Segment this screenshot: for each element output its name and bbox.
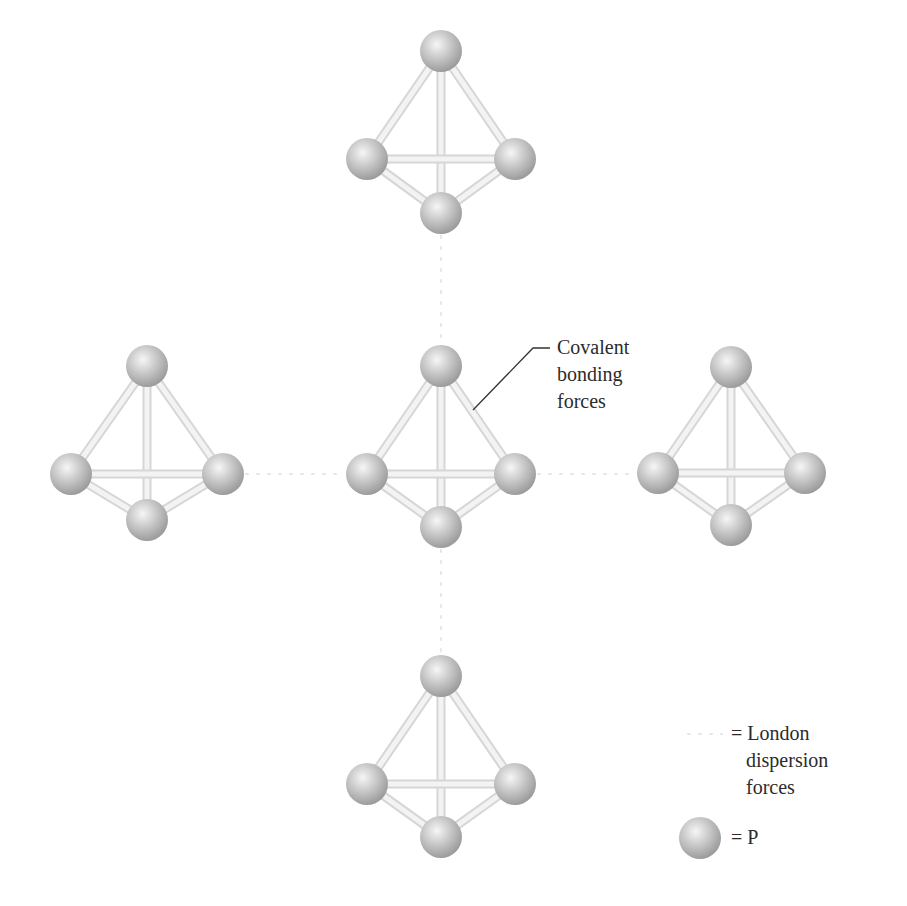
p4-molecule-center	[346, 345, 536, 548]
phosphorus-atom	[710, 504, 752, 546]
phosphorus-atom	[420, 345, 462, 387]
phosphorus-atom	[420, 655, 462, 697]
legend-dispersion-line-3: forces	[731, 774, 828, 801]
legend-graphics	[679, 734, 722, 859]
phosphorus-atom	[346, 138, 388, 180]
phosphorus-atom	[637, 452, 679, 494]
phosphorus-atom	[494, 763, 536, 805]
p4-molecule-right	[637, 346, 826, 546]
phosphorus-atom	[420, 506, 462, 548]
phosphorus-atom	[420, 192, 462, 234]
phosphorus-atom	[346, 763, 388, 805]
covalent-label-line-1: Covalent	[557, 334, 629, 361]
phosphorus-atom	[494, 453, 536, 495]
legend-atom-text: = P	[731, 824, 758, 851]
p4-molecule-top	[346, 30, 536, 234]
phosphorus-atom	[202, 453, 244, 495]
legend-phosphorus-atom-icon	[679, 817, 721, 859]
phosphorus-atom	[420, 30, 462, 72]
phosphorus-atom	[346, 453, 388, 495]
legend-atom-label: = P	[731, 824, 758, 851]
phosphorus-atom	[126, 499, 168, 541]
covalent-bonding-label: Covalent bonding forces	[557, 334, 629, 415]
p4-molecule-left	[50, 345, 244, 541]
phosphorus-atom	[126, 345, 168, 387]
legend-dispersion-line-1: = London	[731, 720, 828, 747]
legend-dispersion-label: = London dispersion forces	[731, 720, 828, 801]
covalent-leader-line	[473, 348, 550, 410]
phosphorus-atom	[784, 452, 826, 494]
covalent-leader-line	[473, 348, 550, 410]
covalent-label-line-3: forces	[557, 388, 629, 415]
phosphorus-atom	[494, 138, 536, 180]
phosphorus-atom	[50, 453, 92, 495]
phosphorus-atom	[710, 346, 752, 388]
legend-dispersion-line-2: dispersion	[731, 747, 828, 774]
covalent-label-line-2: bonding	[557, 361, 629, 388]
phosphorus-atom	[420, 816, 462, 858]
p4-molecule-bottom	[346, 655, 536, 858]
